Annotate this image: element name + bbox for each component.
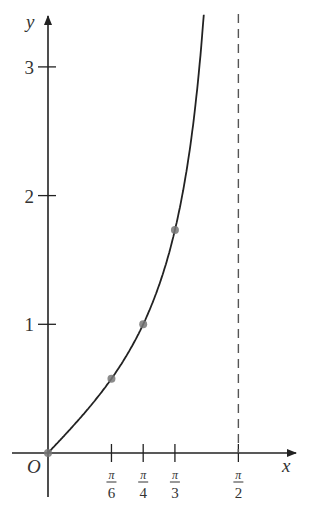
tan-curve xyxy=(48,15,204,453)
tan-graph: 123π6π4π3π2 x y O xyxy=(0,0,320,518)
x-tick-numerator: π xyxy=(172,468,179,482)
y-tick-label: 1 xyxy=(25,314,35,335)
ticks: 123π6π4π3π2 xyxy=(25,57,244,501)
data-point xyxy=(44,449,52,457)
x-tick-numerator: π xyxy=(235,468,242,482)
x-tick-denominator: 2 xyxy=(235,485,243,501)
x-tick-numerator: π xyxy=(108,468,115,482)
x-axis-label: x xyxy=(281,455,291,476)
data-point xyxy=(107,375,115,383)
y-tick-label: 3 xyxy=(25,57,35,78)
data-points xyxy=(44,226,179,457)
x-tick-numerator: π xyxy=(140,468,147,482)
y-tick-label: 2 xyxy=(25,186,35,207)
origin-label: O xyxy=(27,456,41,477)
x-tick-denominator: 4 xyxy=(139,485,147,501)
y-axis-label: y xyxy=(24,11,35,32)
data-point xyxy=(139,320,147,328)
data-point xyxy=(171,226,179,234)
x-tick-denominator: 6 xyxy=(108,485,116,501)
x-tick-denominator: 3 xyxy=(171,485,179,501)
axes xyxy=(12,16,296,497)
